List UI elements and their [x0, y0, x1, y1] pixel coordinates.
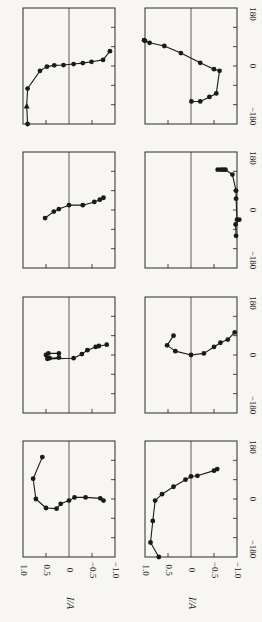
data-point: [72, 495, 77, 500]
panel-row2-left: [23, 152, 115, 268]
data-point: [54, 506, 59, 511]
data-curve: [151, 469, 218, 557]
data-point: [80, 203, 85, 208]
ia-tick-label: −0.5: [210, 562, 220, 579]
data-point: [142, 38, 147, 43]
data-point: [38, 68, 43, 73]
data-point: [233, 222, 238, 227]
angle-tick-label: 180: [248, 440, 258, 454]
data-point: [232, 330, 237, 335]
ia-axis-title: I/A: [65, 596, 76, 610]
angle-tick-label: −180: [248, 251, 258, 270]
triangle-marker: [24, 103, 30, 109]
angle-tick-label: −180: [248, 396, 258, 415]
data-point: [67, 203, 72, 208]
data-point: [80, 61, 85, 66]
angle-tick-label: 180: [248, 151, 258, 165]
data-point: [71, 356, 76, 361]
data-point: [162, 44, 167, 49]
data-point: [85, 348, 90, 353]
panel-top-left: [23, 8, 115, 126]
angle-tick-label: 0: [248, 497, 258, 502]
data-curve: [27, 51, 110, 124]
data-point: [104, 342, 109, 347]
data-point: [225, 337, 230, 342]
data-point: [189, 474, 194, 479]
data-point: [83, 495, 88, 500]
data-point: [79, 352, 84, 357]
data-point: [108, 49, 113, 54]
data-point: [45, 356, 50, 361]
data-point: [25, 122, 30, 127]
panel-bottom-left: [23, 441, 115, 557]
data-point: [101, 195, 106, 200]
data-point: [97, 344, 102, 349]
data-point: [43, 216, 48, 221]
ia-tick-label: −1.0: [233, 562, 243, 579]
data-point: [234, 233, 239, 238]
data-point: [61, 63, 66, 68]
ia-tick-label: −1.0: [111, 562, 121, 579]
data-point: [195, 473, 200, 478]
data-point: [31, 476, 36, 481]
data-point: [52, 63, 57, 68]
data-point: [71, 62, 76, 67]
data-point: [150, 519, 155, 524]
angle-tick-label: 180: [248, 296, 258, 310]
data-point: [198, 60, 203, 65]
data-point: [25, 86, 30, 91]
data-point: [189, 99, 194, 104]
data-curve: [144, 40, 219, 101]
angle-tick-label: 0: [248, 208, 258, 213]
data-point: [214, 91, 219, 96]
data-point: [217, 68, 222, 73]
data-point: [160, 492, 165, 497]
panel-top-right: [142, 8, 237, 124]
data-point: [234, 188, 239, 193]
data-point: [40, 455, 45, 460]
data-point: [189, 353, 194, 358]
data-point: [198, 99, 203, 104]
angle-tick-label: −180: [248, 540, 258, 559]
data-point: [215, 467, 220, 472]
data-point: [230, 172, 235, 177]
data-point: [56, 351, 61, 356]
figure-eight-panels: 1800−1801800−1801800−1801800−1801.00.50−…: [0, 0, 262, 622]
data-point: [234, 196, 239, 201]
data-point: [153, 498, 158, 503]
data-point: [212, 67, 217, 72]
data-point: [171, 484, 176, 489]
data-point: [58, 501, 63, 506]
ia-tick-label: 1.0: [141, 564, 151, 576]
angle-tick-label: 0: [248, 353, 258, 358]
data-point: [207, 95, 212, 100]
angle-tick-label: −180: [248, 107, 258, 126]
data-point: [218, 340, 223, 345]
data-point: [212, 345, 217, 350]
data-point: [101, 57, 106, 62]
data-point: [147, 40, 152, 45]
data-point: [171, 333, 176, 338]
ia-tick-label: 0: [187, 568, 197, 573]
data-point: [173, 349, 178, 354]
panel-row2-right: [145, 152, 242, 268]
ia-tick-label: 0.5: [42, 564, 52, 576]
ia-tick-label: 1.0: [19, 564, 29, 576]
data-point: [89, 59, 94, 64]
data-point: [92, 200, 97, 205]
data-point: [44, 506, 49, 511]
angle-tick-label: 0: [248, 64, 258, 69]
data-point: [148, 540, 153, 545]
data-point: [51, 209, 56, 214]
ia-tick-label: 0.5: [164, 564, 174, 576]
data-point: [178, 51, 183, 56]
data-point: [101, 498, 106, 503]
data-point: [45, 64, 50, 69]
panel-row3-left: [23, 297, 115, 413]
data-point: [56, 355, 61, 360]
ia-axis-title: I/A: [187, 596, 198, 610]
data-point: [156, 555, 161, 560]
ia-tick-label: −0.5: [88, 562, 98, 579]
data-point: [56, 207, 61, 212]
data-point: [33, 497, 38, 502]
